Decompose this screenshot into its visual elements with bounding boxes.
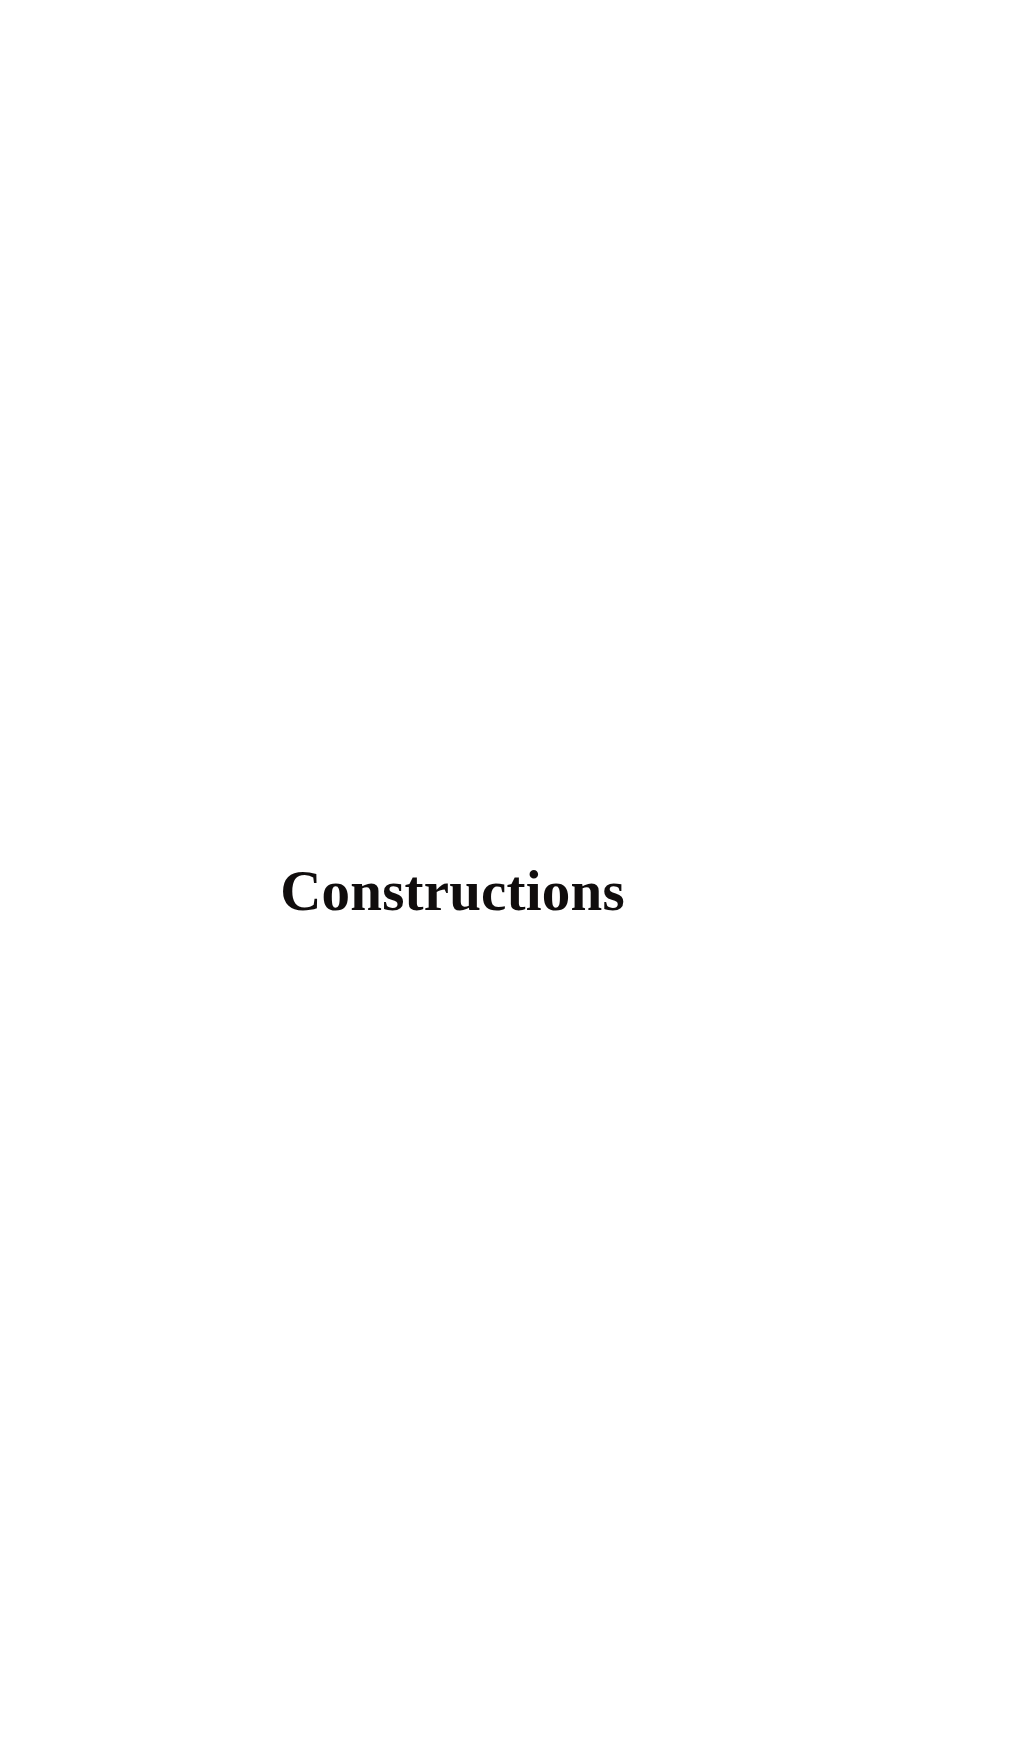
part-divider-title: Constructions (280, 862, 625, 920)
page-type-block: Constructions (0, 0, 905, 1762)
scanned-page: Constructions (0, 0, 1011, 1762)
